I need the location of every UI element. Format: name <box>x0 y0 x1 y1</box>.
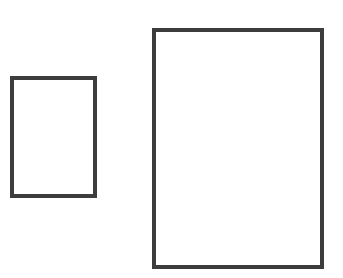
diagram-canvas <box>0 0 343 278</box>
large-rectangle <box>152 28 324 269</box>
small-rectangle <box>10 76 97 198</box>
